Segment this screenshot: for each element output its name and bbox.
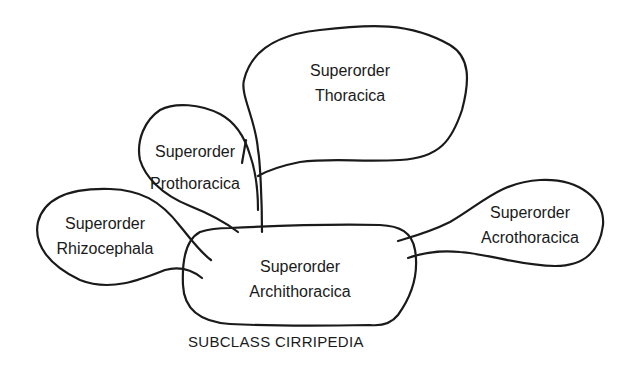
node-thoracica-line1: Superorder: [290, 58, 410, 83]
node-archithoracica-line1: Superorder: [235, 254, 365, 279]
node-acrothoracica-line2: Acrothoracica: [465, 225, 595, 250]
node-rhizocephala-line1: Superorder: [45, 211, 165, 236]
node-rhizocephala: Superorder Rhizocephala: [45, 211, 165, 261]
node-thoracica-line2: Thoracica: [290, 83, 410, 108]
cirripedia-diagram: Superorder Thoracica Superorder Prothora…: [0, 0, 635, 374]
diagram-outlines: [0, 0, 635, 374]
node-prothoracica: Superorder Prothoracica: [140, 136, 250, 200]
node-acrothoracica: Superorder Acrothoracica: [465, 200, 595, 250]
node-archithoracica: Superorder Archithoracica: [235, 254, 365, 304]
node-thoracica: Superorder Thoracica: [290, 58, 410, 108]
node-prothoracica-line1: Superorder: [140, 136, 250, 168]
node-prothoracica-line2: Prothoracica: [140, 168, 250, 200]
node-archithoracica-line2: Archithoracica: [235, 279, 365, 304]
node-acrothoracica-line1: Superorder: [465, 200, 595, 225]
thoracica-outline: [243, 26, 467, 232]
node-rhizocephala-line2: Rhizocephala: [45, 236, 165, 261]
diagram-caption: SUBCLASS CIRRIPEDIA: [188, 333, 364, 350]
